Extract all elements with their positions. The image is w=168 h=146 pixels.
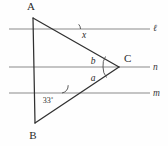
geometry-canvas: A B C ℓ n m x b a 33˚ — [0, 0, 168, 146]
geometry-diagram: A B C ℓ n m x b a 33˚ — [0, 0, 168, 146]
angle-label-a: a — [91, 73, 96, 83]
vertex-label-c: C — [124, 52, 131, 64]
line-label-l: ℓ — [153, 23, 157, 33]
line-label-n: n — [153, 62, 158, 72]
angle-arc-x — [79, 24, 81, 29]
angle-label-b: b — [91, 56, 96, 66]
angle-arc-33 — [62, 85, 68, 93]
triangle-side-ac — [33, 18, 119, 67]
triangle-side-ab — [33, 18, 35, 123]
angle-label-33: 33˚ — [43, 96, 54, 105]
vertex-label-b: B — [29, 129, 36, 141]
triangle-side-bc — [35, 67, 119, 123]
line-label-m: m — [153, 88, 160, 98]
angle-label-x: x — [81, 30, 87, 40]
vertex-label-a: A — [27, 0, 35, 12]
